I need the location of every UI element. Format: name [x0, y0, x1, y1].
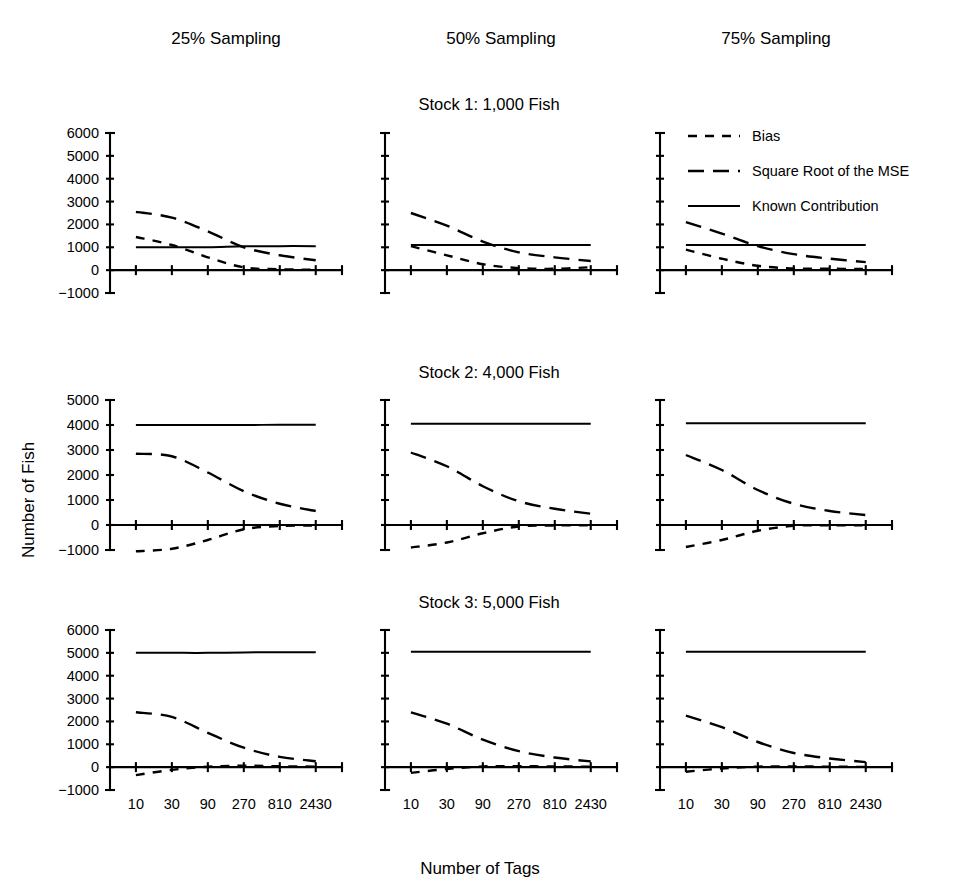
x-tick-label-810: 810 — [543, 796, 567, 812]
series-known-contribution — [136, 246, 316, 247]
x-tick-label-810: 810 — [818, 796, 842, 812]
x-tick-label-2430: 2430 — [575, 796, 607, 812]
y-tick-label-0: 0 — [91, 759, 99, 775]
series-square-root-of-the-mse — [136, 454, 316, 511]
x-tick-label-2430: 2430 — [300, 796, 332, 812]
column-title-1: 50% Sampling — [446, 29, 556, 48]
y-axis-title: Number of Fish — [19, 442, 38, 558]
column-title-group-2: 75% Sampling — [721, 29, 831, 48]
y-tick-label-3000: 3000 — [67, 442, 99, 458]
x-axis-title: Number of Tags — [420, 859, 540, 878]
panel-2-0: −100001000200030004000500060001030902708… — [58, 622, 342, 812]
x-tick-label-270: 270 — [232, 796, 256, 812]
y-tick-label-1000: 1000 — [67, 492, 99, 508]
series-bias — [411, 525, 591, 547]
y-tick-label-5000: 5000 — [67, 645, 99, 661]
y-tick-label-5000: 5000 — [67, 392, 99, 408]
y-tick-label-0: 0 — [91, 262, 99, 278]
series-square-root-of-the-mse — [136, 212, 316, 260]
y-tick-label-4000: 4000 — [67, 417, 99, 433]
y-tick-label-1000: 1000 — [67, 736, 99, 752]
x-tick-label-90: 90 — [750, 796, 766, 812]
series-square-root-of-the-mse — [411, 453, 591, 514]
panel-0-1 — [380, 133, 617, 293]
y-tick-label-5000: 5000 — [67, 148, 99, 164]
multi-panel-line-chart: 25% Sampling50% Sampling75% SamplingStoc… — [0, 0, 961, 890]
series-bias — [136, 237, 316, 270]
series-square-root-of-the-mse — [136, 712, 316, 761]
y-tick-label-3000: 3000 — [67, 691, 99, 707]
series-square-root-of-the-mse — [411, 712, 591, 761]
series-square-root-of-the-mse — [686, 455, 866, 515]
stock-title-2: Stock 3: 5,000 Fish — [418, 593, 559, 611]
legend-label-1: Square Root of the MSE — [752, 163, 909, 179]
stock-title-1: Stock 2: 4,000 Fish — [418, 363, 559, 381]
legend: BiasSquare Root of the MSEKnown Contribu… — [688, 128, 909, 214]
x-tick-label-10: 10 — [128, 796, 144, 812]
panel-1-0: −1000010002000300040005000 — [58, 392, 342, 558]
x-tick-label-10: 10 — [403, 796, 419, 812]
y-tick-label-6000: 6000 — [67, 622, 99, 638]
legend-label-2: Known Contribution — [752, 198, 879, 214]
column-title-2: 75% Sampling — [721, 29, 831, 48]
x-tick-label-10: 10 — [678, 796, 694, 812]
series-square-root-of-the-mse — [686, 716, 866, 762]
y-tick-label-6000: 6000 — [67, 125, 99, 141]
column-title-0: 25% Sampling — [171, 29, 281, 48]
series-square-root-of-the-mse — [686, 222, 866, 262]
y-tick-label--1000: −1000 — [58, 782, 99, 798]
x-tick-label-30: 30 — [164, 796, 180, 812]
series-known-contribution — [136, 652, 316, 653]
stock-title-0: Stock 1: 1,000 Fish — [418, 95, 559, 113]
y-tick-label-0: 0 — [91, 517, 99, 533]
y-tick-label-2000: 2000 — [67, 713, 99, 729]
panel-2-1: 1030902708102430 — [380, 630, 617, 812]
panel-1-2 — [655, 400, 892, 550]
x-tick-label-30: 30 — [714, 796, 730, 812]
y-tick-label-3000: 3000 — [67, 194, 99, 210]
panel-0-0: −10000100020003000400050006000 — [58, 125, 342, 301]
y-tick-label-2000: 2000 — [67, 216, 99, 232]
y-tick-label-4000: 4000 — [67, 668, 99, 684]
series-square-root-of-the-mse — [411, 213, 591, 261]
y-tick-label-4000: 4000 — [67, 171, 99, 187]
x-tick-label-90: 90 — [200, 796, 216, 812]
x-tick-label-90: 90 — [475, 796, 491, 812]
figure-root: 25% Sampling50% Sampling75% SamplingStoc… — [0, 0, 961, 890]
legend-label-0: Bias — [752, 128, 780, 144]
x-tick-label-270: 270 — [507, 796, 531, 812]
y-tick-label--1000: −1000 — [58, 542, 99, 558]
x-tick-label-270: 270 — [782, 796, 806, 812]
x-tick-label-2430: 2430 — [850, 796, 882, 812]
panel-1-1 — [380, 400, 617, 550]
y-tick-label--1000: −1000 — [58, 285, 99, 301]
x-tick-label-810: 810 — [268, 796, 292, 812]
panel-2-2: 1030902708102430 — [655, 630, 892, 812]
column-title-group-0: 25% Sampling — [171, 29, 281, 48]
column-title-group-1: 50% Sampling — [446, 29, 556, 48]
y-tick-label-1000: 1000 — [67, 239, 99, 255]
series-bias — [686, 525, 866, 547]
series-bias — [136, 526, 316, 552]
y-tick-label-2000: 2000 — [67, 467, 99, 483]
x-tick-label-30: 30 — [439, 796, 455, 812]
